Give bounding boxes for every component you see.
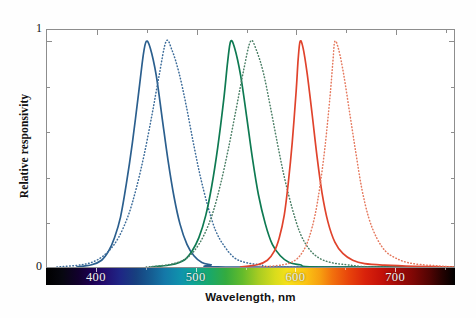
figure-spectral-responsivity-chart: Relative responsivity 1 0 Wavelength, nm… (0, 0, 476, 318)
y-tick-minor-right-0.2 (451, 223, 454, 224)
curve-green-solid (151, 41, 454, 267)
y-axis-title: Relative responsivity (18, 36, 30, 256)
x-tick-top-400 (97, 30, 98, 35)
x-tick-label-400: 400 (86, 270, 106, 285)
y-tick-major-1 (47, 41, 52, 42)
x-tick-top-500 (197, 30, 198, 35)
curve-red-dotted (260, 41, 454, 267)
curve-canvas (47, 30, 454, 267)
plot-area (46, 29, 455, 268)
y-tick-minor-0.2 (47, 223, 50, 224)
y-tick-minor-right-0.6 (451, 132, 454, 133)
x-tick-top-700 (396, 30, 397, 35)
curve-green-dotted (146, 40, 454, 267)
y-tick-minor-right-0.8 (451, 87, 454, 88)
x-tick-top-minor-550 (247, 30, 248, 33)
spectrum-tick-minor-750 (445, 268, 446, 270)
x-tick-top-minor-650 (346, 30, 347, 33)
spectrum-tick-minor-550 (246, 268, 247, 270)
y-tick-minor-0.8 (47, 87, 50, 88)
y-tick-minor-0.6 (47, 132, 50, 133)
x-tick-top-600 (296, 30, 297, 35)
spectrum-tick-minor-450 (146, 268, 147, 270)
x-tick-label-500: 500 (186, 270, 206, 285)
x-tick-label-700: 700 (385, 270, 405, 285)
y-tick-minor-right-0.4 (451, 178, 454, 179)
x-tick-top-minor-750 (446, 30, 447, 33)
curve-blue-solid (77, 41, 454, 267)
spectrum-tick-minor-650 (345, 268, 346, 270)
y-tick-label-0: 0 (24, 259, 42, 274)
x-tick-top-minor-450 (147, 30, 148, 33)
curve-red-solid (241, 41, 454, 267)
x-tick-label-600: 600 (286, 270, 306, 285)
y-tick-minor-0.4 (47, 178, 50, 179)
y-tick-major-right-1 (449, 41, 454, 42)
y-tick-label-1: 1 (24, 21, 42, 36)
x-axis-title: Wavelength, nm (46, 291, 455, 303)
